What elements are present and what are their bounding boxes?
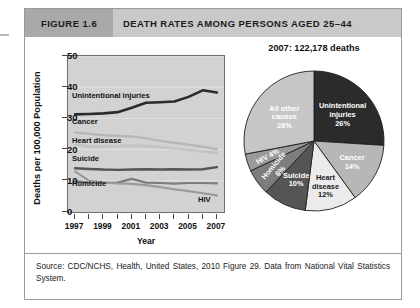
y-tick-mark xyxy=(62,148,67,149)
x-tick-label: 1999 xyxy=(93,221,112,231)
figure-card: FIGURE 1.6 DEATH RATES AMONG PERSONS AGE… xyxy=(24,8,402,300)
line-chart-plot-area xyxy=(67,55,225,213)
figure-number-badge: FIGURE 1.6 xyxy=(25,9,113,37)
figure-header: FIGURE 1.6 DEATH RATES AMONG PERSONS AGE… xyxy=(25,9,401,37)
figure-body: Deaths per 100,000 Population 0102030405… xyxy=(25,37,401,252)
x-tick-mark xyxy=(173,214,174,219)
pie-label-line: 26% xyxy=(335,119,350,128)
x-tick-label: 2007 xyxy=(207,221,226,231)
line-chart-svg xyxy=(68,56,224,212)
figure-root: FIGURE 1.6 DEATH RATES AMONG PERSONS AGE… xyxy=(0,0,420,308)
pie-label-line: 28% xyxy=(277,121,292,130)
pie-chart: 2007: 122,178 deaths Unintentionalinjuri… xyxy=(231,43,397,247)
y-axis-title-label: Deaths per 100,000 Population xyxy=(32,71,42,204)
pie-chart-svg: Unintentionalinjuries26%Cancer14%Heartdi… xyxy=(231,59,397,239)
figure-number-label: FIGURE 1.6 xyxy=(41,18,97,29)
series-label-unintentional-injuries: Unintentional injuries xyxy=(72,91,150,100)
y-tick-mark xyxy=(62,117,67,118)
line-series-suicide xyxy=(75,167,217,170)
series-label-suicide: Suicide xyxy=(72,154,99,163)
figure-title: DEATH RATES AMONG PERSONS AGED 25–44 xyxy=(123,9,352,37)
x-tick-mark xyxy=(145,214,146,219)
x-tick-mark xyxy=(216,214,217,219)
x-tick-label: 1997 xyxy=(65,221,84,231)
series-label-hiv: HIV xyxy=(198,195,211,204)
x-tick-mark xyxy=(202,214,203,219)
figure-source-text: Source: CDC/NCHS, Health, United States,… xyxy=(36,261,390,285)
x-tick-mark xyxy=(188,214,189,219)
y-tick-mark xyxy=(62,86,67,87)
figure-title-label: DEATH RATES AMONG PERSONS AGED 25–44 xyxy=(123,18,352,29)
line-chart: Deaths per 100,000 Population 0102030405… xyxy=(31,53,229,249)
x-tick-mark xyxy=(102,214,103,219)
pie-chart-title: 2007: 122,178 deaths xyxy=(231,43,397,53)
pie-label-line: 12% xyxy=(318,190,333,199)
x-tick-label: 2001 xyxy=(121,221,140,231)
x-tick-mark xyxy=(74,214,75,219)
x-tick-mark xyxy=(117,214,118,219)
x-tick-label: 2005 xyxy=(178,221,197,231)
series-label-homicide: Homicide xyxy=(72,179,106,188)
series-label-cancer: Cancer xyxy=(72,117,98,126)
x-tick-mark xyxy=(88,214,89,219)
y-tick-mark xyxy=(62,55,67,56)
series-label-heart-disease: Heart disease xyxy=(72,136,121,145)
page-edge-mark xyxy=(0,34,9,36)
pie-label-line: 14% xyxy=(345,162,360,171)
y-tick-mark xyxy=(62,179,67,180)
x-tick-mark xyxy=(159,214,160,219)
x-tick-mark xyxy=(131,214,132,219)
pie-label-line: 10% xyxy=(289,179,304,188)
figure-source: Source: CDC/NCHS, Health, United States,… xyxy=(25,253,401,300)
y-tick-mark xyxy=(62,211,67,212)
y-axis-title: Deaths per 100,000 Population xyxy=(29,55,45,220)
x-tick-label: 2003 xyxy=(150,221,169,231)
x-axis-title: Year xyxy=(67,236,225,246)
